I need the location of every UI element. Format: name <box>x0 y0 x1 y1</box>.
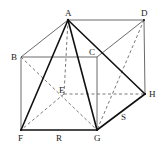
label-E: E <box>59 85 65 95</box>
vertex-D <box>143 19 145 21</box>
labels: A D B C E H F R G S <box>11 8 156 143</box>
label-A: A <box>65 8 72 18</box>
label-H: H <box>149 89 156 99</box>
vertex-H <box>144 93 146 95</box>
vertex-G <box>96 129 98 131</box>
vertex-F <box>20 129 22 131</box>
cube-pyramid-diagram: A D B C E H F R G S <box>0 0 161 147</box>
label-D: D <box>141 8 148 18</box>
label-S: S <box>121 112 126 122</box>
label-B: B <box>11 52 17 62</box>
edge-AG <box>68 20 97 130</box>
edge-AF <box>21 20 68 130</box>
edge-CD <box>97 20 144 57</box>
edge-EF <box>21 94 64 130</box>
vertex-A <box>67 19 69 21</box>
label-F: F <box>18 133 23 143</box>
edge-DH <box>144 20 145 94</box>
label-C: C <box>89 47 95 57</box>
label-G: G <box>94 133 101 143</box>
thick-edges <box>21 20 145 130</box>
label-R: R <box>56 133 62 143</box>
